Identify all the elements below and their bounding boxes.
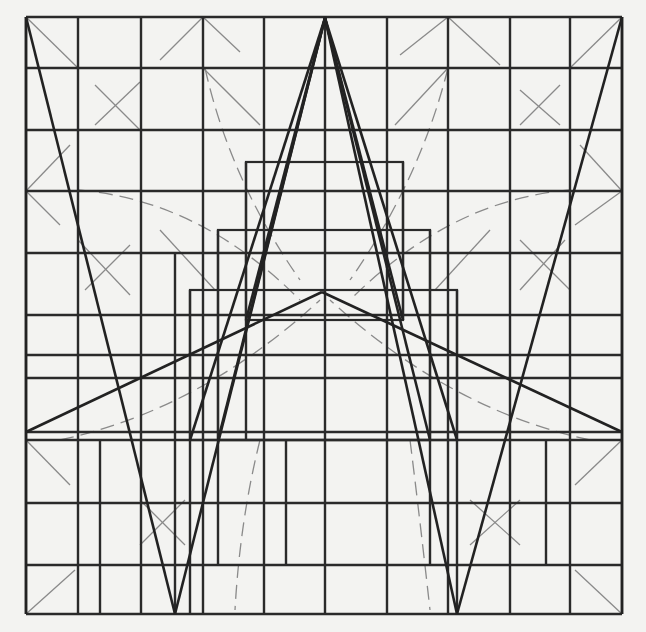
perspective-line [325,18,403,320]
construction-line [575,570,622,614]
grid-lines [26,17,622,614]
construction-line [26,440,70,485]
perspective-grid-diagram [0,0,646,632]
perspective-line [246,18,325,320]
construction-line [575,440,622,485]
perspective-line [322,292,622,432]
vanishing-apex-point [324,17,327,20]
construction-line [575,191,622,225]
construction-line [26,570,75,614]
construction-line [95,82,140,125]
construction-line [78,240,130,295]
construction-line [400,17,448,55]
scanned-page [0,0,646,632]
construction-line [448,17,500,65]
construction-line [580,145,622,191]
construction-line [26,17,78,68]
construction-line [435,230,490,290]
construction-line [26,191,60,225]
construction-line [160,17,203,60]
dashed-curve [235,440,260,610]
construction-line [95,85,140,130]
dashed-curve [410,440,430,610]
construction-line [203,17,240,52]
construction-line [160,230,215,290]
